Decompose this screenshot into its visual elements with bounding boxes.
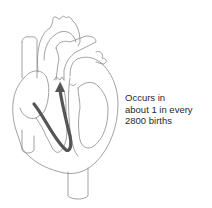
superior-vena-cava	[22, 37, 37, 78]
right-atrium	[20, 71, 49, 119]
inferior-vena-cava	[22, 130, 34, 153]
annotation-line-3: 2800 births	[125, 115, 193, 127]
birth-rate-annotation: Occurs in about 1 in every 2800 births	[125, 92, 193, 127]
blood-flow-arrow	[34, 82, 71, 150]
left-ventricle-wall	[78, 82, 108, 148]
right-ventricle-wall	[36, 82, 67, 152]
valve	[54, 77, 64, 80]
annotation-line-2: about 1 in every	[125, 104, 193, 116]
pulmonary-veins	[96, 51, 106, 64]
annotation-line-1: Occurs in	[125, 92, 193, 104]
